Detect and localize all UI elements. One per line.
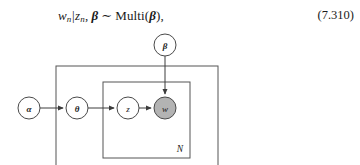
equation-lhs-variable: w	[58, 8, 67, 23]
equation-distribution-name: Multi(	[115, 8, 149, 23]
equation-distribution-argument: β	[149, 8, 156, 23]
equation-closing-paren: ),	[156, 8, 164, 23]
equation-number: (7.310)	[318, 8, 354, 23]
node-theta-label: θ	[75, 104, 80, 114]
node-w-label: w	[162, 104, 168, 114]
equation-comma: ,	[85, 8, 88, 23]
equation-body: wn|zn, β∼Multi(β),	[58, 8, 164, 24]
graphical-model-diagram: M N α θ z w β	[0, 30, 360, 165]
node-z-label: z	[125, 104, 130, 114]
plate-inner-label: N	[176, 144, 184, 154]
figure-page: wn|zn, β∼Multi(β), (7.310) M N α θ z w β	[0, 0, 360, 165]
equation-line: wn|zn, β∼Multi(β), (7.310)	[0, 8, 360, 32]
node-beta-label: β	[162, 41, 168, 51]
equation-distributed-as-symbol: ∼	[98, 8, 115, 23]
